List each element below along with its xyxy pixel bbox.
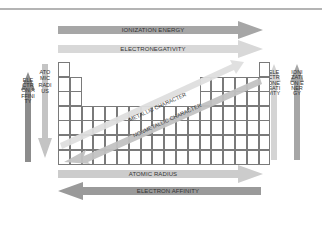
electron-affinity-arrow-horizontal: ELECTRON AFFINITY — [58, 182, 263, 200]
atomic-radius-arrow-horizontal: ATOMIC RADIUS — [58, 165, 263, 183]
metallic-character-arrow — [60, 60, 244, 149]
atomic-radius-label: ATOMIC RADIUS — [58, 165, 248, 183]
electron-affinity-label: ELECTRON AFFINITY — [73, 182, 263, 200]
